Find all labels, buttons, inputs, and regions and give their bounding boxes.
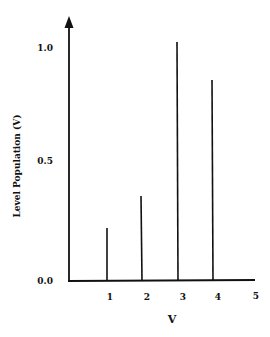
y-tick-label-1: 1.0: [37, 43, 53, 53]
bar-4: [212, 80, 213, 281]
x-tick-label-2: 2: [144, 292, 150, 302]
x-tick-label-3: 3: [180, 292, 186, 302]
y-tick-label-0: 0.0: [37, 276, 53, 286]
x-tick-label-5: 5: [253, 291, 259, 301]
y-tick-label-0.5: 0.5: [37, 156, 53, 166]
x-axis: [68, 280, 255, 281]
level-population-chart: 0.0 0.5 1.0 1 2 3 4 5 V Level Population…: [0, 0, 270, 337]
bar-2: [141, 196, 142, 281]
y-axis-label: Level Population (V): [12, 115, 22, 218]
bars: [107, 42, 213, 281]
y-axis-arrow-icon: [65, 16, 74, 28]
x-tick-label-4: 4: [215, 292, 221, 302]
bar-3: [177, 42, 178, 281]
x-axis-label: V: [167, 313, 177, 326]
x-tick-label-1: 1: [107, 292, 113, 302]
